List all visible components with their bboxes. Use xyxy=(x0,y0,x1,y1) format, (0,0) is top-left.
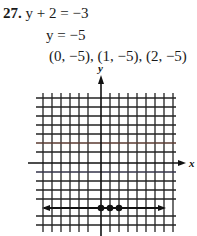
y-axis-arrow-icon xyxy=(98,75,104,84)
point-1-neg5 xyxy=(107,205,114,212)
coordinate-graph: x y xyxy=(0,0,197,236)
x-axis-arrow-icon xyxy=(178,160,186,166)
x-axis-label: x xyxy=(188,157,195,169)
right-arrow-icon xyxy=(158,205,166,211)
plotted-points xyxy=(98,205,123,212)
point-0-neg5 xyxy=(98,205,105,212)
point-2-neg5 xyxy=(116,205,123,212)
y-axis-label: y xyxy=(96,62,103,74)
grid-lines xyxy=(36,0,176,232)
